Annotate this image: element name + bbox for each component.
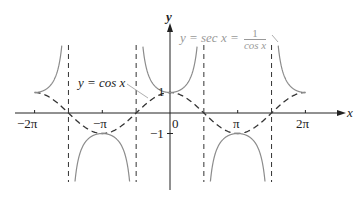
x-axis-arrow-icon xyxy=(337,110,346,116)
sec-curve-label: y = sec x = 1 cos x xyxy=(180,28,266,51)
plot-area xyxy=(0,0,358,198)
sec-curve-branch xyxy=(278,46,305,93)
sec-fraction: 1 cos x xyxy=(244,28,266,51)
x-axis-label: x xyxy=(347,106,353,119)
tick-label-2pi: 2π xyxy=(296,117,309,130)
sec-curve-branch xyxy=(210,134,265,182)
tick-label-neg2pi: −2π xyxy=(17,117,37,130)
tick-label-y1: 1 xyxy=(158,85,165,98)
tick-label-zero: 0 xyxy=(172,117,179,130)
tick-label-yneg1: −1 xyxy=(150,127,164,140)
sec-curve-branch xyxy=(75,134,130,182)
sec-label-leader xyxy=(272,35,278,42)
tick-label-pi: π xyxy=(233,117,240,130)
sec-curve-branch xyxy=(35,46,62,93)
chart: x y −2π −π 0 π 2π 1 −1 y = cos x y = sec… xyxy=(0,0,358,198)
tick-label-negpi: −π xyxy=(93,117,107,130)
cos-curve-label: y = cos x xyxy=(78,76,125,89)
y-axis-label: y xyxy=(166,10,172,23)
y-axis-arrow-icon xyxy=(167,23,173,32)
cos-label-leader xyxy=(127,84,148,98)
